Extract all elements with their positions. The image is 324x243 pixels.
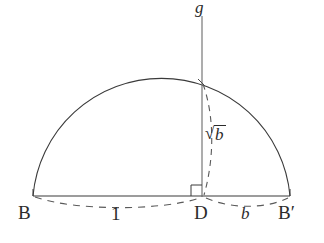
axis-label-g: g — [195, 0, 204, 16]
radicand-text: b — [214, 125, 226, 143]
right-angle-marker — [191, 185, 202, 196]
radical-sign-icon: √ — [205, 125, 214, 142]
point-label-b: B — [18, 203, 31, 222]
altitude-label-sqrt-b: √ b — [205, 125, 226, 143]
semicircle-arc — [33, 78, 290, 196]
radical-group: √ b — [205, 125, 226, 143]
figure-canvas — [0, 0, 324, 243]
point-label-b-prime: B′ — [278, 203, 295, 222]
point-label-d: D — [194, 203, 208, 222]
segment-label-one: 1 — [111, 204, 121, 223]
geometry-figure: g B 1 D b B′ √ b — [0, 0, 324, 243]
segment-label-b: b — [241, 205, 250, 222]
